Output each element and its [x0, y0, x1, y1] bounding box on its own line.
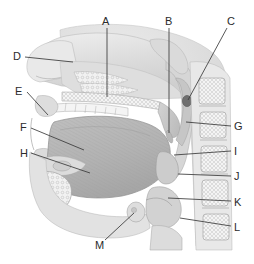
label-e: E — [15, 86, 23, 97]
cervical-spine-group — [190, 62, 232, 250]
vertebra-body-3 — [201, 146, 227, 172]
gland-lobule — [131, 207, 136, 212]
label-c: C — [227, 16, 235, 27]
label-b: B — [165, 16, 173, 27]
vertebra-body-1 — [199, 78, 225, 104]
label-d: D — [13, 51, 21, 62]
vertebra-body-4 — [202, 180, 228, 206]
vertebra-body-5 — [203, 214, 229, 240]
trachea-upper — [150, 226, 182, 251]
figure-container: ABCDEFGHIJKLM — [0, 0, 254, 264]
laryngeal-vestibule — [146, 187, 181, 229]
submandibular-gland — [127, 202, 145, 222]
label-k: K — [234, 197, 242, 208]
vertebral-bodies — [199, 78, 229, 240]
submandibular-region-group — [127, 202, 145, 222]
label-g: G — [234, 121, 243, 132]
oral-fissure — [31, 118, 34, 150]
label-h: H — [20, 148, 28, 159]
label-a: A — [102, 16, 110, 27]
label-f: F — [20, 122, 27, 133]
label-l: L — [234, 222, 240, 233]
anatomy-sagittal-illustration — [0, 0, 254, 264]
label-j: J — [234, 171, 240, 182]
epiglottis — [156, 152, 178, 184]
pharyngeal-opening-auditory-tube — [182, 95, 191, 106]
upper-teeth-row — [56, 103, 128, 116]
label-i: I — [234, 146, 237, 157]
label-m: M — [95, 240, 104, 251]
